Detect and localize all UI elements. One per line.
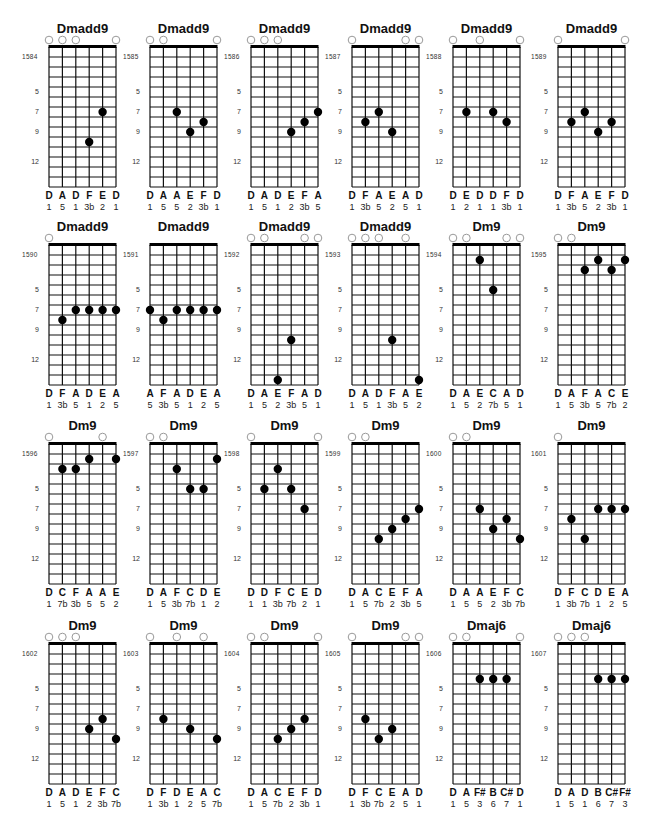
open-string-icon [261,36,269,44]
finger-dot [287,485,295,493]
open-string-icon [213,36,221,44]
fret-marker: 5 [328,286,342,293]
fret-marker: 5 [227,286,241,293]
open-string-icon [173,633,181,641]
finger-dot [98,306,106,314]
finger-dot [502,675,510,683]
fret-marker: 7 [328,505,342,512]
fretboard [558,431,631,587]
finger-dot [213,306,221,314]
finger-dot [607,118,615,126]
nut [49,243,117,246]
chord-id-label: 1585 [123,53,139,60]
fret-marker: 5 [227,485,241,492]
finger-dot [476,505,484,513]
finger-dot [173,108,181,116]
finger-dot [274,735,282,743]
finger-dot [462,108,470,116]
fretboard [49,232,122,388]
open-string-icon [503,234,511,242]
fret-marker: 7 [227,108,241,115]
chord-id-label: 1596 [22,450,38,457]
fret-marker: 5 [328,685,342,692]
finger-dot [502,515,510,523]
open-string-icon [247,433,255,441]
chord-diagram: Dm9159557912DAFACE153b57b2 [528,198,652,398]
fret-marker: 9 [429,128,443,135]
chord-id-label: 1597 [123,450,139,457]
finger-dot [199,306,207,314]
nut [251,45,319,48]
open-string-icon [516,633,524,641]
open-string-icon [348,36,356,44]
nut [453,642,521,645]
fret-marker: 9 [534,525,548,532]
degree-label: 1 [411,799,427,809]
fret-marker: 7 [25,705,39,712]
open-string-icon [314,234,322,242]
finger-dot [621,256,629,264]
fret-marker: 7 [534,108,548,115]
chord-id-label: 1598 [224,450,240,457]
open-string-icon [415,36,423,44]
open-string-icon [247,633,255,641]
fretboard [49,631,122,787]
fret-marker: 12 [328,158,342,165]
fretboard [352,34,425,190]
fret-marker: 12 [227,755,241,762]
chord-id-label: 1588 [426,53,442,60]
open-string-icon [362,433,370,441]
degree-label: 7b [108,799,124,809]
fret-marker: 9 [126,525,140,532]
finger-dot [58,316,66,324]
fret-marker: 5 [126,88,140,95]
nut [251,243,319,246]
open-string-icon [621,36,629,44]
open-string-icon [261,234,269,242]
open-string-icon [314,433,322,441]
chord-id-label: 1591 [123,251,139,258]
open-string-icon [261,633,269,641]
fret-marker: 9 [328,525,342,532]
fret-marker: 7 [126,505,140,512]
fret-marker: 9 [429,326,443,333]
open-string-icon [463,433,471,441]
fret-marker: 12 [126,555,140,562]
chord-id-label: 1586 [224,53,240,60]
fret-marker: 7 [227,705,241,712]
fret-marker: 9 [227,128,241,135]
fret-marker: 12 [126,356,140,363]
fret-marker: 9 [429,725,443,732]
open-string-icon [348,234,356,242]
fret-marker: 9 [126,128,140,135]
nut [251,642,319,645]
fret-marker: 12 [429,555,443,562]
finger-dot [287,725,295,733]
finger-dot [186,725,194,733]
open-string-icon [449,234,457,242]
finger-dot [489,525,497,533]
finger-dot [375,735,383,743]
finger-dot [581,108,589,116]
nut [453,243,521,246]
open-string-icon [516,36,524,44]
open-string-icon [146,36,154,44]
fret-marker: 12 [328,555,342,562]
finger-dot [607,266,615,274]
open-string-icon [516,234,524,242]
open-string-icon [160,433,168,441]
finger-dot [274,465,282,473]
nut [150,442,218,445]
open-string-icon [554,633,562,641]
fretboard [49,431,122,587]
fret-marker: 5 [126,685,140,692]
fret-marker: 7 [429,505,443,512]
chord-id-label: 1589 [531,53,547,60]
finger-dot [594,256,602,264]
chord-id-label: 1606 [426,650,442,657]
open-string-icon [72,36,80,44]
degree-label: 1 [310,799,326,809]
open-string-icon [362,234,370,242]
fret-marker: 7 [429,306,443,313]
open-string-icon [72,633,80,641]
